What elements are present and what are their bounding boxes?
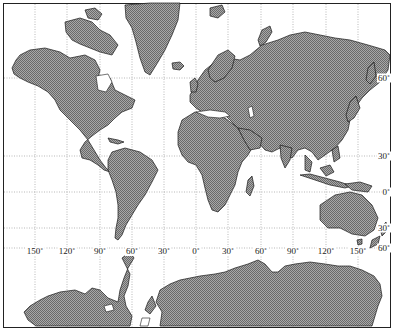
- british-isles: [190, 78, 198, 92]
- lat-label-30s: 30˚: [377, 224, 391, 233]
- world-map: [0, 0, 395, 331]
- lon-label-0: 0˚: [191, 247, 201, 256]
- india: [280, 145, 292, 168]
- lat-label-0: 0˚: [382, 188, 392, 197]
- lon-label-30e: 30˚: [221, 247, 235, 256]
- lat-label-30n: 30˚: [377, 152, 391, 161]
- antarctic-peninsula: [24, 252, 134, 326]
- antarctica: [156, 260, 382, 326]
- lon-label-120w: 120˚: [58, 247, 77, 256]
- lat-label-60s: 60˚: [377, 244, 391, 253]
- new-guinea: [345, 182, 372, 192]
- lat-label-60n: 60˚: [377, 74, 391, 83]
- lon-label-150e: 150˚: [349, 247, 368, 256]
- lon-label-120e: 120˚: [317, 247, 336, 256]
- lon-label-60e: 60˚: [254, 247, 268, 256]
- lon-label-150w: 150˚: [26, 247, 45, 256]
- madagascar: [246, 176, 254, 196]
- south-america: [108, 148, 158, 240]
- lon-label-90e: 90˚: [286, 247, 300, 256]
- lon-label-30w: 30˚: [157, 247, 171, 256]
- lon-label-90w: 90˚: [93, 247, 107, 256]
- arctic-islands: [65, 18, 118, 55]
- australia: [320, 192, 378, 236]
- greenland: [125, 3, 180, 75]
- lon-label-60w: 60˚: [125, 247, 139, 256]
- iceland: [172, 62, 184, 70]
